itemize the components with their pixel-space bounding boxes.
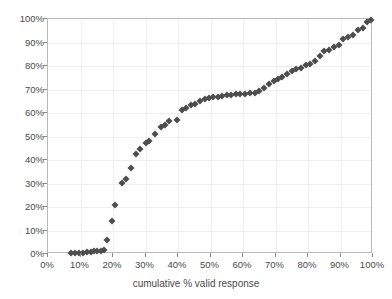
gridline-horizontal bbox=[48, 184, 371, 185]
x-tick-mark bbox=[372, 253, 373, 257]
gridline-vertical bbox=[341, 19, 342, 252]
scatter-chart: 0%10%20%30%40%50%60%70%80%90%100%0%10%20… bbox=[0, 0, 392, 299]
data-point bbox=[104, 237, 111, 244]
gridline-horizontal bbox=[48, 90, 371, 91]
gridline-vertical bbox=[211, 19, 212, 252]
gridline-vertical bbox=[113, 19, 114, 252]
y-axis-tick-label: 10% bbox=[0, 224, 44, 235]
gridline-horizontal bbox=[48, 231, 371, 232]
x-tick-mark bbox=[307, 253, 308, 257]
gridline-vertical bbox=[178, 19, 179, 252]
y-axis-tick-label: 40% bbox=[0, 154, 44, 165]
x-tick-mark bbox=[210, 253, 211, 257]
x-tick-mark bbox=[112, 253, 113, 257]
x-tick-mark bbox=[47, 253, 48, 257]
y-axis-tick-label: 20% bbox=[0, 201, 44, 212]
data-point bbox=[108, 217, 115, 224]
y-axis-tick-label: 60% bbox=[0, 107, 44, 118]
y-axis-tick-label: 80% bbox=[0, 60, 44, 71]
gridline-vertical bbox=[276, 19, 277, 252]
gridline-vertical bbox=[81, 19, 82, 252]
x-tick-mark bbox=[80, 253, 81, 257]
gridline-vertical bbox=[243, 19, 244, 252]
x-tick-mark bbox=[145, 253, 146, 257]
y-axis-tick-label: 50% bbox=[0, 130, 44, 141]
y-axis-tick-label: 70% bbox=[0, 83, 44, 94]
gridline-horizontal bbox=[48, 113, 371, 114]
y-axis-tick-label: 100% bbox=[0, 13, 44, 24]
gridline-horizontal bbox=[48, 43, 371, 44]
plot-area bbox=[47, 18, 372, 253]
data-point bbox=[174, 117, 181, 124]
gridline-horizontal bbox=[48, 66, 371, 67]
y-axis-tick-label: 0% bbox=[0, 248, 44, 259]
gridline-vertical bbox=[308, 19, 309, 252]
y-axis-tick-label: 90% bbox=[0, 36, 44, 47]
x-tick-mark bbox=[340, 253, 341, 257]
gridline-horizontal bbox=[48, 137, 371, 138]
y-axis-tick-label: 30% bbox=[0, 177, 44, 188]
x-axis-tick-label: 100% bbox=[350, 259, 392, 270]
x-tick-mark bbox=[242, 253, 243, 257]
gridline-horizontal bbox=[48, 207, 371, 208]
gridline-horizontal bbox=[48, 160, 371, 161]
x-tick-mark bbox=[177, 253, 178, 257]
data-point bbox=[127, 164, 134, 171]
gridline-vertical bbox=[146, 19, 147, 252]
x-axis-title: cumulative % valid response bbox=[0, 278, 392, 289]
x-tick-mark bbox=[275, 253, 276, 257]
